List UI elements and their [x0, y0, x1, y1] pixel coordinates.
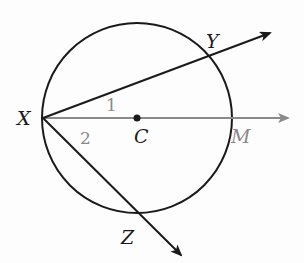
angle-label-2: 2: [80, 128, 91, 148]
label-y: Y: [206, 30, 221, 52]
diagram-svg: X Y Z M C 1 2: [0, 0, 304, 263]
center-point-c: [134, 115, 141, 122]
label-m: M: [230, 125, 251, 147]
label-z: Z: [120, 226, 135, 248]
geometry-diagram: X Y Z M C 1 2: [0, 0, 304, 263]
angle-label-1: 1: [106, 95, 117, 115]
ray-xy: [43, 33, 270, 118]
ray-xz: [43, 118, 181, 255]
label-x: X: [15, 107, 32, 129]
label-c: C: [134, 125, 149, 147]
